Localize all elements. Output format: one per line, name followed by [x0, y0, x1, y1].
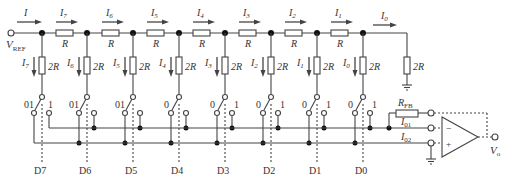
svg-text:1: 1 [74, 99, 79, 110]
svg-text:I4: I4 [158, 57, 166, 70]
ground-icon-2 [426, 159, 436, 164]
svg-text:2R: 2R [277, 61, 288, 72]
svg-text:D6: D6 [79, 165, 91, 176]
svg-text:0: 0 [164, 99, 169, 110]
svg-text:R: R [152, 38, 159, 49]
svg-text:I6: I6 [66, 57, 74, 70]
termination-current-arrow [373, 23, 397, 28]
svg-text:I1: I1 [334, 7, 342, 20]
svg-text:2R: 2R [369, 61, 380, 72]
input-current-arrow [17, 20, 42, 25]
svg-text:D5: D5 [125, 165, 137, 176]
r2r-dac-diagram: VREF I 2R I0 2R I7 0 1 1 [0, 0, 510, 189]
stage-d6: 2R I6 0 1 D6 [66, 30, 104, 176]
svg-text:I6: I6 [105, 7, 113, 20]
input-current-label: I [23, 7, 28, 18]
svg-text:I0: I0 [342, 57, 350, 70]
svg-text:R: R [198, 38, 205, 49]
vout-label: Vo [490, 144, 501, 158]
svg-text:2R: 2R [323, 61, 334, 72]
svg-text:R: R [336, 38, 343, 49]
svg-text:2R: 2R [48, 61, 59, 72]
svg-text:I7: I7 [59, 7, 67, 20]
svg-text:I3: I3 [242, 7, 250, 20]
svg-text:2R: 2R [93, 61, 104, 72]
vref-terminal [8, 30, 14, 36]
svg-text:1: 1 [234, 99, 239, 110]
svg-text:D4: D4 [171, 165, 183, 176]
ground-icon [402, 85, 412, 90]
svg-text:R: R [61, 38, 68, 49]
svg-text:I1: I1 [296, 57, 304, 70]
stage-d7: 2R I7 0 1 1 D7 [21, 30, 59, 176]
svg-text:I2: I2 [250, 57, 258, 70]
svg-text:0: 0 [210, 99, 215, 110]
svg-text:1: 1 [280, 99, 285, 110]
series-resistor-7 [56, 30, 73, 36]
svg-text:1: 1 [372, 99, 377, 110]
stage-d2: 2R I2 0 1 D2 [250, 30, 288, 176]
svg-text:I3: I3 [204, 57, 212, 70]
stage-d5: 2R I5 0 1 D5 [112, 30, 150, 176]
svg-text:−: − [446, 123, 452, 134]
iout1-terminal [428, 125, 434, 131]
svg-text:D2: D2 [263, 165, 275, 176]
svg-text:0: 0 [348, 99, 353, 110]
svg-text:I5: I5 [112, 57, 120, 70]
vout-terminal [492, 134, 498, 140]
svg-text:I2: I2 [288, 7, 296, 20]
opamp: − + Vo [434, 113, 501, 158]
stage-d3: 2R I3 0 1 D3 [204, 30, 242, 176]
bus2-label: I02 [400, 131, 412, 144]
svg-text:1: 1 [326, 99, 331, 110]
termination-resistor-label: 2R [413, 61, 424, 72]
svg-text:D0: D0 [355, 165, 367, 176]
svg-text:2R: 2R [185, 61, 196, 72]
svg-text:1: 1 [120, 99, 125, 110]
stage-d1: 2R I1 0 1 D1 [296, 30, 334, 176]
iout2-terminal [428, 140, 434, 146]
svg-text:D7: D7 [34, 165, 46, 176]
svg-text:R: R [244, 38, 251, 49]
svg-text:I5: I5 [150, 7, 158, 20]
stage-d0: 2R I0 0 1 D0 [342, 30, 380, 176]
svg-text:2R: 2R [231, 61, 242, 72]
svg-text:D1: D1 [309, 165, 321, 176]
svg-text:I4: I4 [196, 7, 204, 20]
svg-text:RFB: RFB [397, 97, 413, 110]
svg-text:R: R [290, 38, 297, 49]
termination-resistor [404, 57, 410, 74]
svg-text:0: 0 [256, 99, 261, 110]
svg-text:1: 1 [29, 99, 34, 110]
svg-text:D3: D3 [217, 165, 229, 176]
bus1-label: I01 [400, 116, 412, 129]
termination-current-label: I0 [380, 10, 388, 23]
svg-text:R: R [107, 38, 114, 49]
svg-text:I7: I7 [21, 57, 29, 70]
svg-text:2R: 2R [139, 61, 150, 72]
svg-text:+: + [446, 139, 451, 149]
stage-d4: 2R I4 0 D4 [158, 30, 196, 176]
svg-text:1: 1 [48, 99, 53, 110]
vref-label: VREF [6, 38, 26, 53]
svg-text:0: 0 [302, 99, 307, 110]
